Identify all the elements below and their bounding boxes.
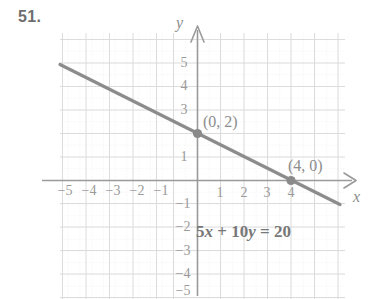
equation-equals: = [256, 222, 274, 241]
equation-coefficient-a: 5 [196, 222, 205, 241]
equation-plus: + [213, 222, 231, 241]
equation-variable-x: x [205, 222, 214, 241]
data-point-0-2 [193, 129, 202, 138]
x-tick-label-minus-2: −2 [126, 183, 148, 199]
x-tick-label-minus-1: −1 [150, 183, 172, 199]
x-tick-label-4: 4 [283, 185, 299, 201]
y-tick-label-4: 4 [176, 78, 192, 94]
y-tick-label-3: 3 [176, 102, 192, 118]
y-axis-label: y [176, 14, 183, 32]
x-tick-label-3: 3 [259, 185, 275, 201]
x-tick-label-2: 2 [236, 185, 252, 201]
equation-label: 5x + 10y = 20 [196, 222, 291, 242]
y-tick-label-1: 1 [176, 149, 192, 165]
y-tick-label-minus-3: −3 [172, 243, 194, 259]
x-axis-label: x [353, 188, 360, 206]
point-label-4-0: (4, 0) [288, 157, 323, 175]
x-tick-label-minus-3: −3 [102, 183, 124, 199]
y-tick-label-5: 5 [176, 55, 192, 71]
data-point-4-0 [286, 176, 295, 185]
y-tick-label-minus-4: −4 [172, 266, 194, 282]
x-tick-label-1: 1 [212, 185, 228, 201]
equation-rhs: 20 [274, 222, 291, 241]
y-tick-label-minus-2: −2 [172, 219, 194, 235]
y-tick-label-minus-5: −5 [172, 283, 194, 299]
equation-variable-y: y [248, 222, 256, 241]
graph-figure: 51. [0, 0, 382, 299]
x-tick-label-minus-5: −5 [54, 183, 76, 199]
equation-coefficient-b: 10 [231, 222, 248, 241]
point-label-0-2: (0, 2) [203, 113, 238, 131]
x-tick-label-minus-4: −4 [78, 183, 100, 199]
y-tick-label-minus-1: −1 [172, 196, 194, 212]
